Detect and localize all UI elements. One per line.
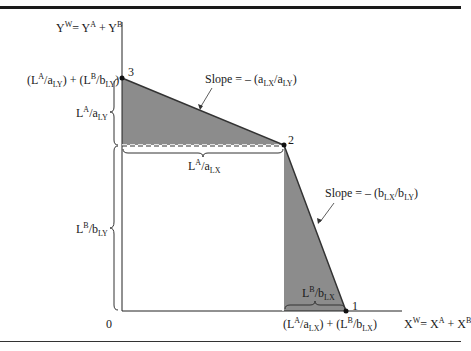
x-intercept-label: (LA/aLX) + (LB/bLX): [283, 318, 377, 330]
point-2-label: 2: [288, 134, 294, 146]
la-aly-label: LA/aLY: [76, 107, 108, 119]
point-1-label: 1: [352, 300, 358, 312]
slope-lower-arrowhead: [317, 218, 322, 224]
slope-upper-label: Slope = – (aLX/aLY): [205, 73, 297, 85]
point-3: [120, 76, 125, 81]
lb-blx-label: LB/bLX: [302, 287, 335, 299]
brace-la-alx: [123, 149, 283, 157]
y-axis-label: YW= YA + YB: [56, 22, 122, 34]
brace-lb-bly: [110, 146, 118, 310]
point-2: [282, 143, 287, 148]
slope-lower-label: Slope = – (bLX/bLY): [325, 187, 418, 199]
point-1: [344, 309, 349, 314]
lb-bly-label: LB/bLY: [76, 223, 108, 235]
slope-upper-arrow: [200, 88, 212, 108]
origin-label: 0: [106, 318, 112, 330]
point-3-label: 3: [128, 66, 134, 78]
x-axis-label: XW= XA + XB: [404, 318, 471, 330]
slope-lower-arrow: [320, 203, 334, 222]
y-intercept-label: (LA/aLY) + (LB/bLY): [27, 74, 119, 86]
la-alx-label: LA/aLX: [188, 160, 220, 172]
